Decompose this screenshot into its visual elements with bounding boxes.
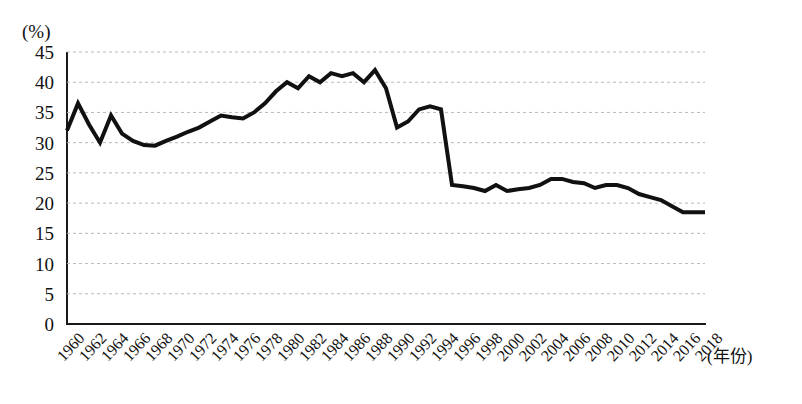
x-axis-title: (年份) [707, 342, 752, 367]
x-axis-tick-labels: 1960196219641966196819701972197419761978… [0, 0, 802, 404]
line-chart-figure: (%) 454035302520151050 19601962196419661… [0, 0, 802, 404]
